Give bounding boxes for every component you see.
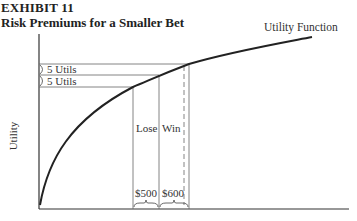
utility-function-curve [40, 37, 312, 205]
utility-function-label: Utility Function [264, 21, 338, 34]
util-label-lower: 5 Utils [47, 75, 77, 87]
win-label: Win [162, 122, 181, 134]
util-bracket-lower [40, 76, 43, 86]
util-bracket-upper [40, 65, 43, 74]
y-axis-label: Utility [7, 121, 19, 150]
util-label-upper: 5 Utils [47, 63, 77, 75]
x-label-600: $600 [162, 187, 185, 199]
lose-label: Lose [136, 122, 158, 134]
x-bracket-600 [160, 200, 188, 207]
x-label-500: $500 [135, 187, 158, 199]
x-bracket-500 [134, 200, 158, 207]
chart-canvas: 5 Utils 5 Utils Lose Win $500 $600 Utili… [0, 0, 357, 221]
